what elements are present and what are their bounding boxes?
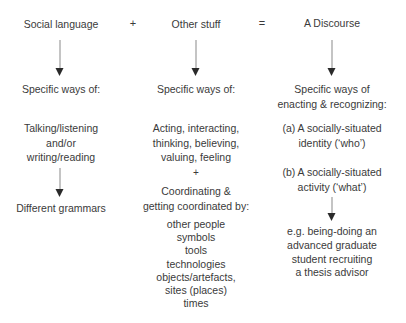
enacting-line: Specific ways of [277, 82, 386, 97]
identity-line: (a) A socially-situated [282, 121, 381, 136]
coordinating-text: Coordinating & getting coordinated by: [143, 184, 249, 214]
activity-line: Acting, interacting, [153, 121, 239, 136]
arrow-down-icon [192, 40, 201, 76]
list-item: symbols [156, 231, 235, 244]
activities-text: Acting, interacting, thinking, believing… [153, 121, 239, 165]
list-item: technologies [156, 258, 235, 271]
arrow-down-icon [328, 197, 337, 221]
term-discourse: A Discourse [304, 16, 360, 31]
enacting-line: enacting & recognizing: [277, 97, 386, 112]
coordinating-line: Coordinating & [143, 184, 249, 199]
specific-ways-label: Specific ways of: [22, 82, 100, 97]
example-line: e.g. being-doing an [287, 225, 377, 239]
list-item: times [156, 297, 235, 310]
activity-line: thinking, believing, [153, 136, 239, 151]
arrow-down-icon [56, 168, 65, 197]
coordinated-by-list: other people symbols tools technologies … [156, 218, 235, 310]
activity-line: (b) A socially-situated [282, 165, 381, 180]
arrow-down-icon [328, 40, 337, 76]
list-item: objects/artefacts, [156, 271, 235, 284]
outcome-grammars: Different grammars [16, 201, 106, 216]
arrow-down-icon [56, 40, 65, 76]
list-item: sites (places) [156, 284, 235, 297]
coordinating-line: getting coordinated by: [143, 199, 249, 214]
mode-line: Talking/listening [24, 121, 98, 136]
mode-line: and/or [24, 136, 98, 151]
plus-operator: + [130, 17, 136, 29]
example-line: student recruiting [287, 253, 377, 267]
activity-line: activity (‘what’) [282, 180, 381, 195]
example-text: e.g. being-doing an advanced graduate st… [287, 225, 377, 280]
identity-text: (a) A socially-situated identity (‘who’) [282, 121, 381, 150]
term-other-stuff: Other stuff [172, 17, 221, 32]
example-line: a thesis advisor [287, 266, 377, 280]
activity-line: valuing, feeling [153, 150, 239, 165]
list-item: tools [156, 244, 235, 257]
activity-text: (b) A socially-situated activity (‘what’… [282, 165, 381, 194]
term-social-language: Social language [24, 17, 99, 32]
enacting-label: Specific ways of enacting & recognizing: [277, 82, 386, 112]
language-modes: Talking/listening and/or writing/reading [24, 121, 98, 165]
example-line: advanced graduate [287, 239, 377, 253]
specific-ways-label: Specific ways of: [157, 82, 235, 97]
mode-line: writing/reading [24, 150, 98, 165]
plus-operator: + [193, 167, 199, 178]
equals-operator: = [259, 17, 265, 29]
identity-line: identity (‘who’) [282, 136, 381, 151]
list-item: other people [156, 218, 235, 231]
